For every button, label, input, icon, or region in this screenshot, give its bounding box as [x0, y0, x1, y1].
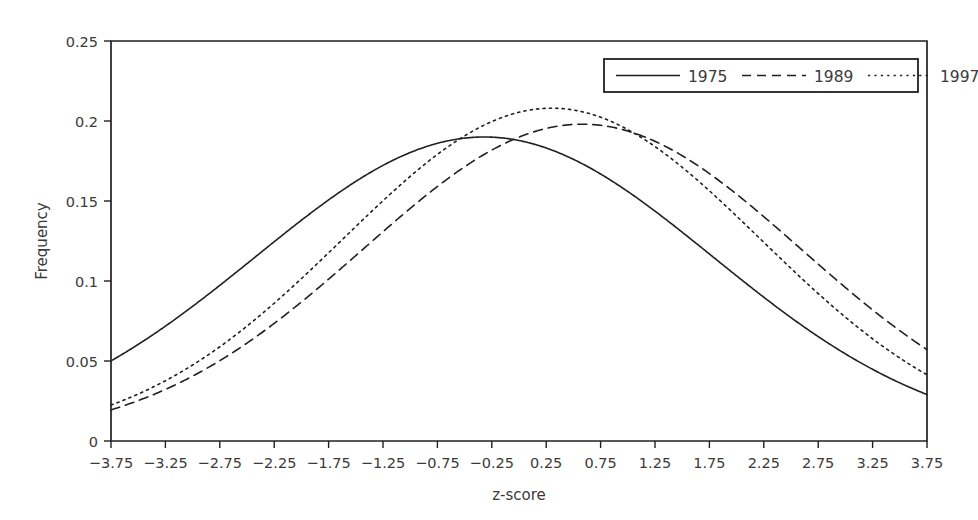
x-tick-label: 2.75	[802, 455, 834, 471]
x-tick-label: 0.75	[584, 455, 616, 471]
x-tick-label: −0.25	[470, 455, 514, 471]
x-tick-label: −3.25	[143, 455, 187, 471]
axis-frame	[111, 41, 927, 441]
chart-canvas: −3.75−3.25−2.75−2.25−1.75−1.25−0.75−0.25…	[0, 0, 978, 520]
x-tick-label: −1.75	[306, 455, 350, 471]
x-tick-label: −1.25	[361, 455, 405, 471]
legend-label-1975: 1975	[688, 68, 727, 86]
legend-label-1989: 1989	[814, 68, 853, 86]
data-curves	[111, 108, 927, 410]
y-tick-label: 0.05	[66, 354, 98, 370]
y-axis-title: Frequency	[33, 202, 51, 280]
y-tick-label: 0.2	[75, 114, 98, 130]
y-tick-label: 0.25	[66, 34, 98, 50]
y-axis-tick-labels: 00.050.10.150.20.25	[66, 34, 98, 450]
chart-legend: 197519891997	[604, 59, 978, 92]
x-tick-label: 3.25	[856, 455, 888, 471]
x-tick-label: 0.25	[530, 455, 562, 471]
x-tick-label: 2.25	[748, 455, 780, 471]
legend-label-1997: 1997	[940, 68, 978, 86]
x-tick-label: −3.75	[89, 455, 133, 471]
x-tick-label: −2.25	[252, 455, 296, 471]
x-tick-label: 1.75	[693, 455, 725, 471]
x-tick-label: 1.25	[639, 455, 671, 471]
x-axis-tick-labels: −3.75−3.25−2.75−2.25−1.75−1.25−0.75−0.25…	[89, 455, 943, 471]
y-tick-label: 0.1	[75, 274, 98, 290]
y-tick-label: 0	[89, 434, 98, 450]
x-tick-label: −0.75	[415, 455, 459, 471]
x-axis-ticks	[111, 441, 927, 448]
curve-1989	[111, 124, 927, 410]
x-tick-label: −2.75	[198, 455, 242, 471]
curve-1975	[111, 137, 927, 395]
frequency-z-score-chart: −3.75−3.25−2.75−2.25−1.75−1.25−0.75−0.25…	[0, 0, 978, 520]
curve-1997	[111, 108, 927, 405]
y-tick-label: 0.15	[66, 194, 98, 210]
plot-frame	[111, 41, 927, 441]
y-axis-ticks	[104, 41, 111, 441]
x-tick-label: 3.75	[911, 455, 943, 471]
x-axis-title: z-score	[492, 486, 546, 504]
